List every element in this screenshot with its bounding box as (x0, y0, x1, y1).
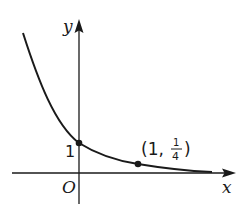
origin-label: O (62, 177, 76, 197)
y-axis-label: y (62, 16, 73, 36)
fraction-numerator: 1 (173, 137, 179, 148)
point-label-one-quarter: (1, 1 4 ) (141, 137, 191, 163)
point-y-intercept (76, 140, 83, 147)
exponential-graph: y x O 1 (1, 1 4 ) (0, 0, 243, 204)
x-axis-label: x (222, 177, 232, 197)
x-axis (12, 169, 236, 178)
point-one-quarter (135, 161, 142, 168)
fraction-denominator: 4 (172, 150, 179, 163)
point-label-close: ) (184, 139, 191, 159)
y-intercept-label: 1 (65, 142, 75, 161)
point-label-open: (1, (141, 139, 164, 159)
